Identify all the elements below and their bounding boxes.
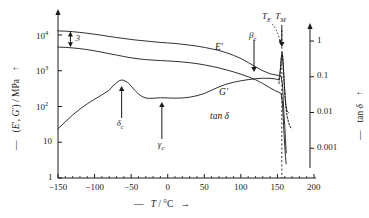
annotation-label-t-e: TE xyxy=(262,12,271,23)
annotation-label-beta-c: βc xyxy=(249,31,256,42)
y-tick-label-left-4: 1 xyxy=(48,173,53,182)
gamma-c-arrow-head xyxy=(159,102,164,107)
x-tick-label-200: 200 xyxy=(307,183,321,192)
y-tick-label-left-1: 103 xyxy=(36,65,48,76)
y-tick-label-right-2: 0.01 xyxy=(317,107,333,116)
annotation-label-t-m: TM xyxy=(275,12,285,23)
x-tick-label-100: 100 xyxy=(234,183,248,192)
annotation-label-factor-3: 3 xyxy=(75,34,80,43)
y-axis-left-arrowhead xyxy=(55,9,60,15)
y-tick-label-left-2: 102 xyxy=(36,101,48,112)
y-axis-left-dash: — xyxy=(11,141,21,151)
x-tick-label-0: 0 xyxy=(165,183,170,192)
x-axis-arrow: → xyxy=(181,199,191,209)
delta-c-arrow-head xyxy=(119,86,124,91)
x-tick-label-neg50: −50 xyxy=(124,183,138,192)
annotation-label-gamma-c: γc xyxy=(158,140,164,151)
y-axis-right-text: tan δ xyxy=(355,104,365,122)
x-tick-label-150: 150 xyxy=(271,183,285,192)
x-tick-label-neg150: −150 xyxy=(49,183,68,192)
annotation-label-delta-c: δc xyxy=(117,119,124,130)
x-tick-label-neg100: −100 xyxy=(85,183,104,192)
y-tick-label-left-3: 10 xyxy=(43,137,52,146)
y-tick-label-right-3: 0.001 xyxy=(317,143,337,152)
curve-e xyxy=(58,31,286,153)
y-axis-right-arrowhead xyxy=(307,23,312,29)
curve-label-tan-delta: tan δ xyxy=(210,112,229,122)
curves-group xyxy=(58,31,291,164)
y-tick-label-right-0: 1 xyxy=(317,36,322,45)
beta-c-arrow-head xyxy=(251,67,256,72)
y-axis-right-title: — tan δ ↑ xyxy=(356,91,366,140)
x-tick-label-50: 50 xyxy=(200,183,209,192)
annotations-group xyxy=(68,24,285,178)
x-axis-text: T / °C xyxy=(151,199,174,209)
y-axis-left-arrow: ↑ xyxy=(11,66,21,71)
te-leader-line xyxy=(272,24,280,41)
y-axis-right-dash: — xyxy=(355,131,365,141)
y-axis-left-title: — (E′, G′) / MPa ↑ xyxy=(12,66,22,150)
y-tick-label-right-1: 0.1 xyxy=(317,71,328,80)
curve-label-g-prime: G′ xyxy=(219,88,228,98)
y-axis-left-text: (E′, G′) / MPa xyxy=(11,79,21,132)
x-axis-title: — T / °C → xyxy=(134,200,190,210)
factor3-arrow-head-down xyxy=(68,42,73,47)
y-tick-label-left-0: 104 xyxy=(36,30,48,41)
dma-thermogram-figure: — (E′, G′) / MPa ↑ — tan δ ↑ — T / °C → … xyxy=(0,0,369,218)
factor3-arrow-head-up xyxy=(68,32,73,37)
curve-label-e-prime: E′ xyxy=(215,43,223,53)
y-axis-right-arrow: ↑ xyxy=(355,91,365,96)
x-axis-dash: — xyxy=(134,199,144,209)
